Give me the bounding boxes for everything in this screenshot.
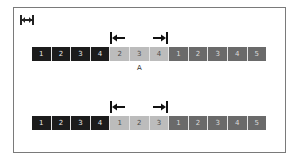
segment-cell: 4 <box>91 116 110 130</box>
right-bracket-arrow-icon <box>152 101 168 113</box>
segment-cell: 1 <box>169 47 188 61</box>
right-bracket-arrow-icon <box>152 32 168 44</box>
segment-cell: 3 <box>130 47 149 61</box>
segment-cell: 2 <box>52 47 71 61</box>
segment-cell: 2 <box>52 116 71 130</box>
segment-row-a: 123423412345 <box>32 47 266 61</box>
span-width-icon <box>20 15 34 25</box>
segment-cell: 3 <box>208 47 227 61</box>
segment-cell: 4 <box>228 47 247 61</box>
segment-cell: 4 <box>228 116 247 130</box>
segment-cell: 4 <box>91 47 110 61</box>
segment-cell: 3 <box>208 116 227 130</box>
segment-cell: 4 <box>150 47 169 61</box>
segment-cell: 3 <box>150 116 169 130</box>
left-bracket-arrow-icon <box>110 101 126 113</box>
diagram-frame <box>13 7 286 153</box>
segment-cell: 3 <box>71 47 90 61</box>
segment-cell: 5 <box>248 116 267 130</box>
segment-cell: 5 <box>248 47 267 61</box>
segment-cell: 1 <box>32 47 51 61</box>
segment-cell: 3 <box>71 116 90 130</box>
segment-cell: 2 <box>189 116 208 130</box>
segment-cell: 2 <box>130 116 149 130</box>
segment-cell: 1 <box>110 116 129 130</box>
segment-cell: 2 <box>189 47 208 61</box>
segment-cell: 2 <box>110 47 129 61</box>
left-bracket-arrow-icon <box>110 32 126 44</box>
segment-cell: 1 <box>32 116 51 130</box>
segment-row-b: 123412312345 <box>32 116 266 130</box>
segment-cell: 1 <box>169 116 188 130</box>
row-caption: A <box>137 64 142 72</box>
